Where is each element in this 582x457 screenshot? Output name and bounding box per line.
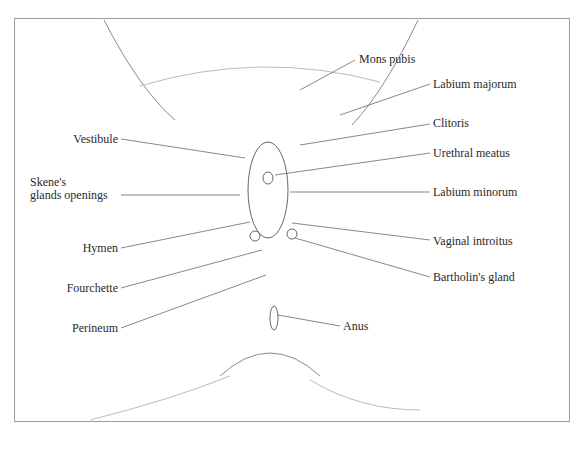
label-clitoris: Clitoris bbox=[433, 117, 469, 130]
label-fourchette: Fourchette bbox=[30, 282, 118, 295]
label-urethral-meatus: Urethral meatus bbox=[433, 147, 510, 160]
schematic-outline bbox=[0, 0, 582, 457]
label-hymen: Hymen bbox=[30, 242, 118, 255]
label-labium-majorum: Labium majorum bbox=[433, 78, 517, 91]
label-perineum: Perineum bbox=[30, 322, 118, 335]
label-mons-pubis: Mons pubis bbox=[359, 53, 415, 66]
label-vaginal-introitus: Vaginal introitus bbox=[433, 235, 513, 248]
label-vestibule: Vestibule bbox=[30, 133, 118, 146]
label-labium-minorum: Labium minorum bbox=[433, 186, 517, 199]
label-bartholins-gland: Bartholin's gland bbox=[433, 271, 515, 284]
label-skenes-line2: glands openings bbox=[30, 189, 118, 202]
label-anus: Anus bbox=[343, 320, 368, 333]
